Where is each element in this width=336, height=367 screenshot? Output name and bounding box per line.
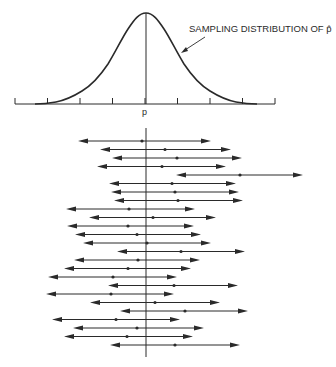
right-arrowhead [228,283,238,288]
point-estimate [151,216,154,219]
right-arrowhead [191,232,201,237]
point-estimate [135,233,138,236]
interval-arrow [97,164,226,169]
right-arrowhead [238,308,248,313]
interval-arrow [48,274,177,279]
interval-arrow [176,172,303,177]
interval-arrow [117,249,245,254]
point-estimate [153,301,156,304]
right-arrowhead [201,138,211,143]
point-estimate [126,224,129,227]
left-arrowhead [100,147,110,152]
interval-arrow [114,198,243,203]
left-arrowhead [114,198,124,203]
interval-arrow [89,215,216,220]
right-arrowhead [184,223,194,228]
interval-arrow [83,240,211,245]
intervals-panel [46,128,303,357]
right-arrowhead [170,317,180,322]
interval-arrow [111,189,239,194]
right-arrowhead [181,266,191,271]
interval-arrow [67,223,194,228]
point-estimate [109,292,112,295]
point-estimate [160,165,163,168]
left-arrowhead [67,223,77,228]
interval-arrow [108,283,238,288]
annotation-arrowhead [181,47,188,53]
interval-arrow [46,291,174,296]
left-arrowhead [73,325,83,330]
interval-arrow [110,342,240,347]
left-arrowhead [75,232,85,237]
right-arrowhead [216,164,226,169]
interval-arrow [52,317,180,322]
confidence-intervals [46,138,303,347]
point-estimate [173,343,176,346]
point-estimate [172,284,175,287]
left-arrowhead [108,283,118,288]
point-estimate [140,139,143,142]
left-arrowhead [111,189,121,194]
point-estimate [179,250,182,253]
left-arrowhead [64,266,74,271]
left-arrowhead [89,215,99,220]
left-arrowhead [120,308,130,313]
interval-arrow [64,334,193,339]
right-arrowhead [210,300,220,305]
right-arrowhead [206,215,216,220]
point-estimate [176,199,179,202]
right-arrowhead [235,249,245,254]
interval-arrow [73,325,204,330]
right-arrowhead [226,181,236,186]
point-estimate [125,335,128,338]
interval-arrow [74,257,200,262]
left-arrowhead [52,317,62,322]
true-p-label: p [142,107,147,117]
left-arrowhead [64,334,74,339]
point-estimate [145,241,148,244]
left-arrowhead [78,138,88,143]
left-arrowhead [117,249,127,254]
right-arrowhead [185,206,195,211]
point-estimate [111,275,114,278]
left-arrowhead [110,342,120,347]
left-arrowhead [112,155,122,160]
right-arrowhead [164,291,174,296]
left-arrowhead [46,291,56,296]
interval-arrow [78,138,211,143]
point-estimate [170,182,173,185]
point-estimate [135,326,138,329]
left-arrowhead [83,240,93,245]
right-arrowhead [229,189,239,194]
right-arrowhead [201,240,211,245]
interval-arrow [90,300,220,305]
left-arrowhead [90,300,100,305]
interval-arrow [112,155,242,160]
point-estimate [114,318,117,321]
right-arrowhead [293,172,303,177]
confidence-interval-diagram [0,0,336,367]
point-estimate [183,309,186,312]
right-arrowhead [221,147,231,152]
point-estimate [136,258,139,261]
interval-arrow [120,308,248,313]
interval-arrow [109,181,236,186]
left-arrowhead [74,257,84,262]
right-arrowhead [194,325,204,330]
distribution-annotation: SAMPLING DISTRIBUTION OF p̂ [189,23,332,34]
point-estimate [238,173,241,176]
point-estimate [175,156,178,159]
interval-arrow [64,266,191,271]
annotation-leader [185,37,205,50]
point-estimate [163,148,166,151]
left-arrowhead [109,181,119,186]
left-arrowhead [48,274,58,279]
interval-arrow [75,232,201,237]
point-estimate [127,207,130,210]
left-arrowhead [66,206,76,211]
point-estimate [126,267,129,270]
interval-arrow [66,206,195,211]
left-arrowhead [97,164,107,169]
right-arrowhead [232,155,242,160]
point-estimate [173,190,176,193]
